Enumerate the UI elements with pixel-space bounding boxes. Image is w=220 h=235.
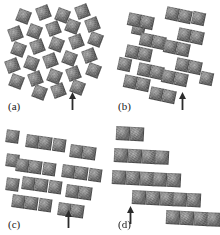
tile-chain bbox=[116, 126, 144, 141]
tile bbox=[155, 150, 170, 165]
tile bbox=[82, 146, 97, 161]
tile bbox=[31, 84, 48, 101]
tile-chain bbox=[165, 6, 194, 25]
tile bbox=[193, 211, 208, 226]
tile bbox=[159, 191, 174, 206]
tile bbox=[48, 36, 65, 53]
tile bbox=[174, 72, 190, 88]
tile-chain bbox=[61, 164, 103, 183]
tile bbox=[87, 31, 104, 48]
tile bbox=[35, 4, 52, 21]
tile bbox=[140, 15, 156, 31]
tile bbox=[136, 77, 152, 93]
tile-chain bbox=[25, 134, 67, 153]
reference-arrow-d-icon bbox=[126, 206, 135, 224]
tile bbox=[153, 172, 168, 187]
tile bbox=[8, 73, 25, 90]
tile bbox=[117, 57, 133, 73]
tile bbox=[48, 180, 63, 195]
tile bbox=[188, 60, 204, 76]
tile bbox=[52, 138, 67, 153]
tile bbox=[145, 191, 160, 206]
panel-label-c: (c) bbox=[8, 219, 20, 230]
tile-chain bbox=[112, 170, 182, 187]
tile bbox=[176, 42, 192, 58]
figure-root: (a) (b) (c) (d) bbox=[0, 0, 220, 235]
reference-arrow-b-icon bbox=[178, 92, 187, 110]
tile-chain bbox=[166, 210, 220, 227]
tile bbox=[112, 170, 127, 185]
tile bbox=[29, 38, 46, 55]
tile bbox=[114, 148, 129, 163]
tile-chain bbox=[149, 86, 178, 105]
tile-chain bbox=[132, 190, 202, 207]
tile-chain bbox=[65, 184, 93, 201]
tile bbox=[5, 129, 20, 144]
tile bbox=[10, 41, 27, 58]
tile bbox=[127, 149, 142, 164]
tile bbox=[5, 177, 20, 192]
tile bbox=[88, 168, 103, 183]
tile bbox=[68, 33, 85, 50]
tile bbox=[129, 127, 144, 142]
tile bbox=[42, 162, 57, 177]
tile bbox=[167, 173, 182, 188]
tile bbox=[141, 149, 156, 164]
tile bbox=[166, 210, 181, 225]
tile bbox=[78, 186, 93, 201]
tile bbox=[50, 82, 67, 99]
tile bbox=[125, 171, 140, 186]
tile-chain bbox=[69, 144, 97, 161]
tile bbox=[38, 198, 53, 213]
tile bbox=[4, 57, 21, 74]
tile bbox=[162, 89, 178, 105]
tile-chain bbox=[11, 194, 53, 213]
tile bbox=[42, 52, 59, 69]
panel-label-b: (b) bbox=[118, 101, 131, 112]
tile bbox=[173, 192, 188, 207]
tile bbox=[85, 62, 102, 79]
tile bbox=[116, 126, 131, 141]
tile bbox=[187, 193, 202, 208]
tile-chain bbox=[21, 176, 63, 195]
tile bbox=[178, 9, 194, 25]
panel-label-a: (a) bbox=[8, 101, 20, 112]
reference-arrow-c-icon bbox=[64, 210, 73, 228]
tile bbox=[7, 25, 24, 42]
tile bbox=[190, 30, 206, 46]
tile bbox=[45, 20, 62, 37]
tile bbox=[139, 171, 154, 186]
tile bbox=[138, 47, 154, 63]
tile-chain bbox=[114, 148, 170, 165]
tile bbox=[132, 190, 147, 205]
reference-arrow-a-icon bbox=[68, 92, 77, 110]
tile bbox=[207, 212, 220, 227]
tile bbox=[179, 211, 194, 226]
tile-chain bbox=[15, 158, 57, 177]
